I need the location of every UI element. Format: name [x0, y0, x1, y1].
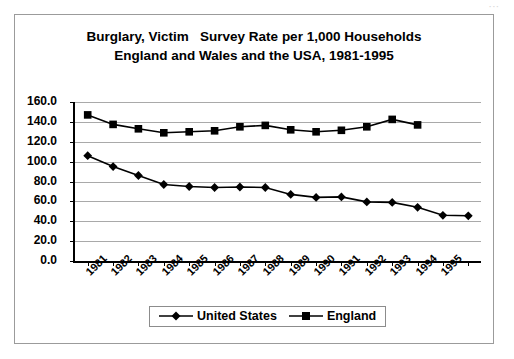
- data-point-diamond: [109, 162, 118, 171]
- legend-square-marker-icon: [289, 310, 323, 322]
- data-point-diamond: [337, 193, 346, 202]
- y-axis-label: 160.0: [0, 95, 57, 107]
- data-point-square: [312, 128, 320, 136]
- legend-entry-england[interactable]: England: [289, 310, 376, 323]
- data-point-square: [388, 116, 396, 124]
- data-point-square: [109, 121, 117, 129]
- data-point-diamond: [159, 180, 168, 189]
- data-point-diamond: [134, 171, 143, 180]
- data-point-diamond: [210, 183, 219, 192]
- series-layer: [75, 102, 481, 261]
- data-point-diamond: [464, 211, 473, 220]
- y-axis-label: 140.0: [0, 115, 57, 127]
- data-point-diamond: [185, 182, 194, 191]
- series-line-united-states: [88, 156, 469, 216]
- data-point-diamond: [236, 183, 245, 192]
- data-point-square: [84, 111, 92, 119]
- data-point-square: [338, 127, 346, 135]
- legend-diamond-marker-icon: [159, 310, 193, 322]
- y-axis-label: 100.0: [0, 155, 57, 167]
- data-point-square: [236, 123, 244, 131]
- legend-entry-united-states[interactable]: United States: [159, 310, 277, 323]
- plot-wrapper: 160.0140.0120.0100.080.060.040.020.00.01…: [15, 15, 495, 345]
- page-number-artifact: ···: [489, 2, 500, 11]
- data-point-square: [262, 122, 270, 130]
- data-point-square: [135, 125, 143, 133]
- data-point-diamond: [388, 198, 397, 207]
- data-point-diamond: [362, 198, 371, 207]
- y-axis-label: 0.0: [0, 254, 57, 266]
- data-point-square: [414, 121, 422, 129]
- data-point-square: [160, 129, 168, 137]
- data-point-square: [185, 128, 193, 136]
- y-axis-label: 60.0: [0, 194, 57, 206]
- legend-label-united-states: United States: [197, 310, 277, 323]
- y-axis-label: 40.0: [0, 214, 57, 226]
- data-point-square: [287, 126, 295, 134]
- data-point-square: [211, 127, 219, 135]
- legend-label-england: England: [327, 310, 376, 323]
- y-axis-label: 120.0: [0, 135, 57, 147]
- data-point-diamond: [83, 151, 92, 160]
- y-axis-label: 20.0: [0, 234, 57, 246]
- data-point-diamond: [312, 193, 321, 202]
- y-axis-tick: [70, 261, 75, 262]
- data-point-diamond: [261, 183, 270, 192]
- x-axis-tick: [468, 261, 469, 266]
- chart-legend: United States England: [149, 306, 386, 327]
- data-point-square: [363, 123, 371, 131]
- plot-area: 160.0140.0120.0100.080.060.040.020.00.01…: [73, 102, 481, 263]
- y-axis-label: 80.0: [0, 175, 57, 187]
- data-point-diamond: [413, 203, 422, 212]
- data-point-diamond: [286, 190, 295, 199]
- data-point-diamond: [439, 211, 448, 220]
- chart-container: Burglary, Victim Survey Rate per 1,000 H…: [14, 14, 494, 344]
